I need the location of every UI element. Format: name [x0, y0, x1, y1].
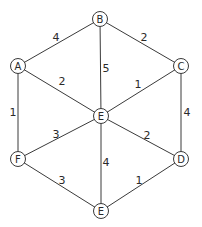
nodes-layer: BACEFDE [11, 12, 189, 219]
edge-weight-label: 5 [103, 62, 110, 75]
edge-weight-label: 3 [59, 174, 66, 187]
edge-weight-label: 1 [135, 78, 142, 91]
edge-A-Ec [18, 66, 101, 116]
node-F: F [11, 152, 26, 167]
node-B: B [93, 12, 108, 27]
edge-weight-label: 4 [103, 156, 110, 169]
edge-B-Ec [100, 19, 101, 116]
node-label: E [98, 111, 104, 122]
edge-F-Ec [18, 116, 101, 159]
edge-weight-label: 4 [184, 106, 191, 119]
node-label: A [15, 61, 22, 72]
edge-C-Ec [101, 66, 181, 116]
node-label: F [15, 154, 21, 165]
edge-weight-label: 3 [53, 128, 60, 141]
edge-Ec-D [101, 116, 181, 159]
edge-weight-label: 2 [59, 75, 66, 88]
node-label: D [177, 154, 185, 165]
edge-weight-label: 4 [53, 31, 60, 44]
edge-weight-label: 1 [136, 174, 143, 187]
node-label: B [97, 14, 104, 25]
node-label: E [98, 206, 104, 217]
node-Eb: E [94, 204, 109, 219]
node-A: A [11, 59, 26, 74]
node-D: D [174, 152, 189, 167]
edge-weight-label: 2 [144, 129, 151, 142]
node-C: C [174, 59, 189, 74]
weighted-graph-diagram: 425211432431 BACEFDE [0, 0, 202, 227]
edge-weight-label: 2 [141, 31, 148, 44]
edge-weight-label: 1 [10, 106, 17, 119]
node-label: C [178, 61, 185, 72]
node-Ec: E [94, 109, 109, 124]
